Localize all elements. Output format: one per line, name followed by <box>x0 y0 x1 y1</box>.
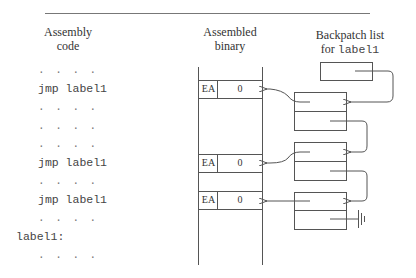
diagram-lines <box>0 0 416 278</box>
binary-row-1-opcode: EA <box>200 83 217 94</box>
binary-row-2-operand: 0 <box>218 157 262 168</box>
binary-row-3-opcode: EA <box>200 194 217 205</box>
binary-row-1-operand: 0 <box>218 83 262 94</box>
binary-row-3-operand: 0 <box>218 194 262 205</box>
binary-row-2-opcode: EA <box>200 157 217 168</box>
